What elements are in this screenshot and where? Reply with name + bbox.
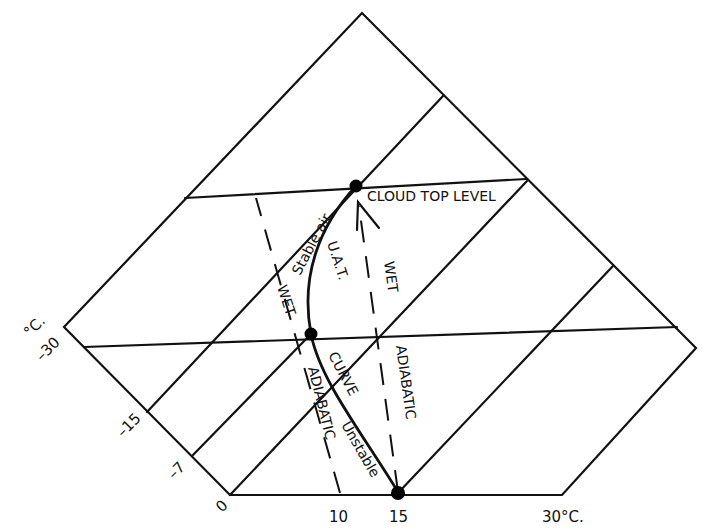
mid-dot — [305, 328, 318, 341]
wet-right-label: WET — [381, 260, 401, 294]
diagram-boundary — [64, 13, 696, 495]
isotherm-15 — [398, 266, 613, 493]
tick-15: 15 — [389, 508, 408, 526]
wet-left-label: WET — [274, 283, 299, 318]
tephigram-diagram: CLOUD TOP LEVEL °C. –30 –15 –7 0 10 15 3… — [0, 0, 707, 531]
tick-minus7: –7 — [164, 458, 189, 483]
tick-minus15: –15 — [113, 409, 145, 441]
base-dot — [391, 486, 405, 500]
tick-10: 10 — [329, 508, 348, 526]
tick-30: 30°C. — [542, 508, 584, 526]
isotherm-minus7 — [193, 334, 311, 455]
unstable-label: Unstable — [338, 419, 383, 481]
uat-label: U.A.T. — [324, 239, 352, 282]
cloud-top-label: CLOUD TOP LEVEL — [367, 188, 496, 204]
axis-unit-label: °C. — [20, 312, 49, 341]
arrow-head-icon — [357, 202, 379, 230]
curve-label: CURVE — [325, 349, 361, 398]
tick-0: 0 — [212, 496, 231, 515]
adiabatic-left-label: ADIABATIC — [305, 365, 339, 441]
adiabatic-right-label: ADIABATIC — [393, 344, 419, 420]
cloud-top-dot — [350, 180, 363, 193]
tick-minus30: –30 — [32, 333, 64, 365]
